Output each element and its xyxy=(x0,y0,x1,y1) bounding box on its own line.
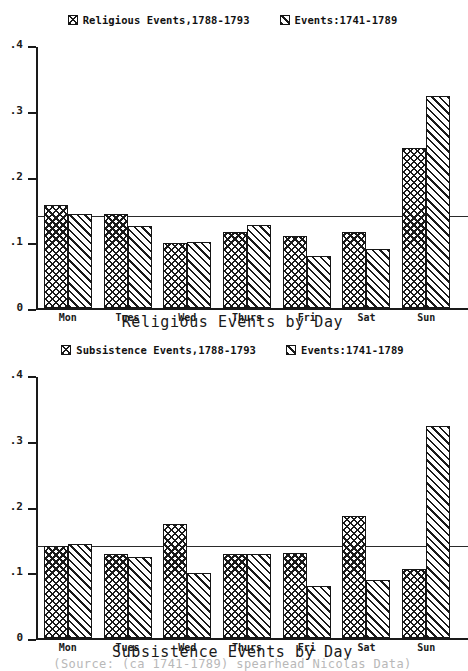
plot-area-subsistence: 0.1.2.3.4 MonTuesWedThursFriSatSun xyxy=(36,377,456,640)
y-tick-label: .4 xyxy=(10,39,23,51)
y-tick-label: .1 xyxy=(10,236,23,248)
y-tick-label: .3 xyxy=(10,105,23,117)
legend-swatch-diagonal-icon xyxy=(280,15,290,25)
y-tick-.3: .3 xyxy=(28,112,36,114)
y-tick-.3: .3 xyxy=(28,442,36,444)
bar xyxy=(128,226,152,308)
bar-group: Tues xyxy=(98,377,158,638)
y-tick-label: .2 xyxy=(10,171,23,183)
source-note: (Source: (ca 1741-1789) spearhead Nicola… xyxy=(0,657,465,671)
bar-group: Fri xyxy=(277,377,337,638)
bar xyxy=(342,516,366,638)
bar-group: Sun xyxy=(396,377,456,638)
bar xyxy=(163,243,187,308)
bar-group: Wed xyxy=(157,377,217,638)
bar xyxy=(187,573,211,638)
legend-entry-events-1741-1789: Events:1741-1789 xyxy=(286,344,404,356)
bar-group: Thurs xyxy=(217,47,277,308)
x-axis-line-subsistence xyxy=(36,638,468,640)
bar xyxy=(247,225,271,309)
bar xyxy=(68,544,92,638)
bar xyxy=(44,205,68,308)
bar-group: Fri xyxy=(277,47,337,308)
legend-swatch-diagonal-icon xyxy=(286,345,296,355)
bar-group: Wed xyxy=(157,47,217,308)
plot-area-religious: 0.1.2.3.4 MonTuesWedThursFriSatSun xyxy=(36,47,456,310)
bar-groups-religious: MonTuesWedThursFriSatSun xyxy=(38,47,456,308)
legend-swatch-crosshatch-icon xyxy=(68,15,78,25)
y-tick-.4: .4 xyxy=(28,376,36,378)
y-tick-.4: .4 xyxy=(28,46,36,48)
y-tick-0: 0 xyxy=(28,309,36,311)
legend-entry-religious-events: Religious Events,1788-1793 xyxy=(68,14,250,26)
y-tick-.2: .2 xyxy=(28,508,36,510)
y-tick-label: .4 xyxy=(10,369,23,381)
bar xyxy=(307,586,331,638)
bar xyxy=(426,96,450,308)
bar xyxy=(283,236,307,308)
y-tick-.1: .1 xyxy=(28,573,36,575)
bar-group: Thurs xyxy=(217,377,277,638)
legend-swatch-crosshatch-icon xyxy=(61,345,71,355)
y-tick-0: 0 xyxy=(28,639,36,641)
bar-group: Sat xyxy=(337,377,397,638)
bar xyxy=(104,554,128,638)
legend-subsistence: Subsistence Events,1788-1793 Events:1741… xyxy=(0,340,465,360)
bar xyxy=(128,557,152,638)
bar xyxy=(223,232,247,308)
bar-group: Mon xyxy=(38,377,98,638)
bar xyxy=(283,553,307,638)
bar xyxy=(104,214,128,308)
bar xyxy=(163,524,187,638)
y-tick-.1: .1 xyxy=(28,243,36,245)
bar-group: Sun xyxy=(396,47,456,308)
bar xyxy=(426,426,450,638)
y-tick-.2: .2 xyxy=(28,178,36,180)
chart-title-religious: Religious Events by Day xyxy=(0,313,465,331)
bar xyxy=(366,249,390,308)
bar xyxy=(187,242,211,308)
legend-label-events-1741-1789: Events:1741-1789 xyxy=(301,344,404,356)
bar xyxy=(44,546,68,638)
legend-label-events-1741-1789: Events:1741-1789 xyxy=(295,14,398,26)
bar-group: Mon xyxy=(38,47,98,308)
bar xyxy=(68,214,92,308)
legend-entry-subsistence-events: Subsistence Events,1788-1793 xyxy=(61,344,256,356)
legend-label-subsistence-events: Subsistence Events,1788-1793 xyxy=(76,344,256,356)
bar-group: Sat xyxy=(337,47,397,308)
bar xyxy=(247,554,271,638)
bar xyxy=(402,148,426,308)
bar xyxy=(342,232,366,308)
bar xyxy=(223,554,247,638)
x-axis-line-religious xyxy=(36,308,468,310)
bar xyxy=(402,569,426,638)
y-tick-label: .3 xyxy=(10,435,23,447)
legend-entry-events-1741-1789: Events:1741-1789 xyxy=(280,14,398,26)
chart-panel-religious: Religious Events,1788-1793 Events:1741-1… xyxy=(0,0,465,335)
legend-label-religious-events: Religious Events,1788-1793 xyxy=(83,14,250,26)
legend-religious: Religious Events,1788-1793 Events:1741-1… xyxy=(0,10,465,30)
bar xyxy=(366,580,390,638)
bar xyxy=(307,256,331,308)
bar-group: Tues xyxy=(98,47,158,308)
y-tick-label: .2 xyxy=(10,501,23,513)
bar-groups-subsistence: MonTuesWedThursFriSatSun xyxy=(38,377,456,638)
y-tick-label: .1 xyxy=(10,566,23,578)
chart-panel-subsistence: Subsistence Events,1788-1793 Events:1741… xyxy=(0,330,465,670)
